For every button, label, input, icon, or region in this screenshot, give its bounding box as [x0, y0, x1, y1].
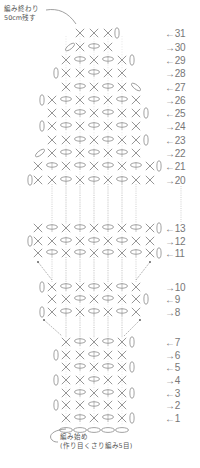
row-label-26: →26 [165, 95, 185, 106]
row-label-21: ←21 [165, 161, 185, 172]
start-leader-line [51, 429, 66, 442]
stitch-grid [28, 28, 161, 433]
row-label-13: ←13 [165, 223, 185, 234]
row-label-4: →4 [165, 375, 180, 386]
row-label-29: ←29 [165, 55, 185, 66]
row-label-8: →8 [165, 307, 180, 318]
row-label-1: ←1 [165, 413, 180, 424]
row-label-9: ←9 [165, 294, 180, 305]
row-label-24: →24 [165, 121, 185, 132]
row-label-12: →12 [165, 236, 185, 247]
row-label-2: →2 [165, 400, 180, 411]
row-label-20: →20 [165, 175, 185, 186]
row-label-3: ←3 [165, 388, 180, 399]
row-label-5: ←5 [165, 362, 180, 373]
row-label-6: →6 [165, 350, 180, 361]
row-label-31: ←31 [165, 28, 185, 39]
row-label-27: ←27 [165, 82, 185, 93]
row-label-22: →22 [165, 148, 185, 159]
row-label-30: →30 [165, 42, 185, 53]
row-label-11: ←11 [165, 248, 184, 259]
row-label-25: ←25 [165, 108, 185, 119]
end-leader-line [46, 10, 76, 24]
row-label-28: →28 [165, 68, 185, 79]
row-label-10: →10 [165, 282, 185, 293]
row-label-23: ←23 [165, 135, 185, 146]
column-guides [52, 36, 181, 425]
row-label-7: ←7 [165, 337, 180, 348]
